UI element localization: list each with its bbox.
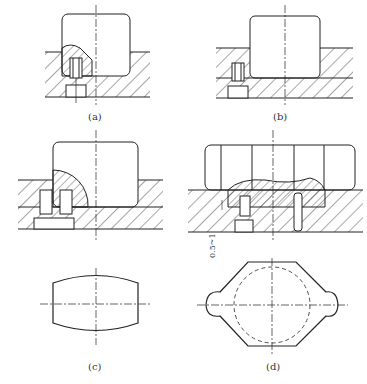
panel-a [45, 5, 150, 105]
panel-b [216, 5, 353, 105]
gap-dimension-label: 0.5~1 [208, 233, 217, 258]
caption-d: (d) [266, 361, 280, 372]
caption-c: (c) [88, 361, 101, 372]
caption-a: (a) [88, 111, 102, 122]
panel-c-plan [40, 268, 150, 345]
panel-c-section [18, 130, 163, 240]
caption-b: (b) [273, 111, 287, 122]
panel-d-plan [197, 258, 348, 355]
technical-drawing [0, 0, 367, 384]
panel-d-section [188, 130, 363, 240]
